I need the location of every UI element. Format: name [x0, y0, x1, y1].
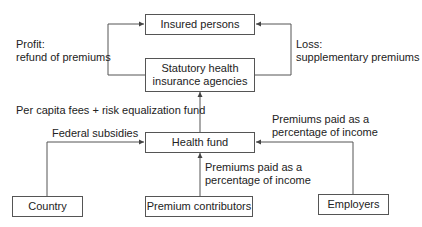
profit-arrow — [108, 24, 145, 75]
loss-label: Loss: supplementary premiums — [296, 38, 420, 64]
per-capita-label: Per capita fees + risk equalization fund — [16, 104, 205, 117]
loss-arrow — [255, 24, 291, 75]
statutory-agencies-box: Statutory health insurance agencies — [145, 58, 255, 92]
employers-label: Employers — [328, 198, 380, 211]
insured-persons-box: Insured persons — [145, 14, 255, 35]
contributors-premiums-label: Premiums paid as a percentage of income — [205, 161, 311, 187]
health-fund-label: Health fund — [172, 136, 228, 149]
insured-persons-label: Insured persons — [161, 18, 240, 31]
agencies-label-line1: Statutory health — [161, 62, 238, 75]
federal-subsidies-label: Federal subsidies — [52, 127, 138, 140]
health-fund-box: Health fund — [145, 132, 255, 153]
premium-contributors-label: Premium contributors — [147, 200, 252, 213]
country-box: Country — [12, 196, 83, 217]
premium-contributors-box: Premium contributors — [145, 196, 253, 217]
employers-box: Employers — [318, 194, 389, 215]
employers-premiums-label: Premiums paid as a percentage of income — [272, 113, 378, 139]
agencies-label-line2: insurance agencies — [153, 75, 248, 88]
country-label: Country — [28, 200, 67, 213]
federal-subsidies-arrow — [47, 142, 144, 196]
profit-label: Profit: refund of premiums — [16, 38, 111, 64]
